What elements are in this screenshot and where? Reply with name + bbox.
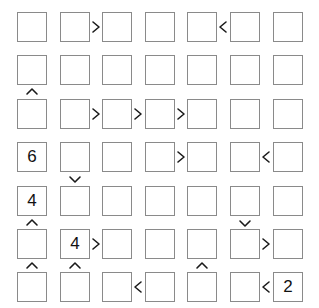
empty-cell[interactable] xyxy=(187,12,217,42)
empty-cell[interactable] xyxy=(102,272,132,302)
empty-cell[interactable] xyxy=(60,55,90,85)
less-than-icon xyxy=(216,20,230,34)
empty-cell[interactable] xyxy=(102,12,132,42)
empty-cell[interactable] xyxy=(187,186,217,216)
less-than-icon xyxy=(131,280,145,294)
empty-cell[interactable] xyxy=(102,99,132,129)
empty-cell[interactable] xyxy=(145,229,175,259)
empty-cell[interactable] xyxy=(102,142,132,172)
empty-cell[interactable] xyxy=(230,142,260,172)
empty-cell[interactable] xyxy=(230,12,260,42)
empty-cell[interactable] xyxy=(273,229,303,259)
empty-cell[interactable] xyxy=(102,186,132,216)
empty-cell[interactable] xyxy=(102,229,132,259)
given-cell[interactable]: 2 xyxy=(273,272,303,302)
empty-cell[interactable] xyxy=(230,272,260,302)
given-cell[interactable]: 6 xyxy=(17,142,47,172)
empty-cell[interactable] xyxy=(60,142,90,172)
empty-cell[interactable] xyxy=(17,229,47,259)
less-than-icon xyxy=(259,280,273,294)
greater-than-icon xyxy=(89,237,103,251)
empty-cell[interactable] xyxy=(60,186,90,216)
empty-cell[interactable] xyxy=(145,186,175,216)
futoshiki-board: 6442 xyxy=(0,0,319,308)
chevron-down-icon xyxy=(68,172,82,186)
empty-cell[interactable] xyxy=(60,99,90,129)
chevron-up-icon xyxy=(25,259,39,273)
empty-cell[interactable] xyxy=(230,186,260,216)
empty-cell[interactable] xyxy=(145,142,175,172)
empty-cell[interactable] xyxy=(145,12,175,42)
empty-cell[interactable] xyxy=(60,272,90,302)
less-than-icon xyxy=(259,150,273,164)
empty-cell[interactable] xyxy=(145,272,175,302)
greater-than-icon xyxy=(131,107,145,121)
empty-cell[interactable] xyxy=(17,99,47,129)
chevron-up-icon xyxy=(25,85,39,99)
empty-cell[interactable] xyxy=(273,99,303,129)
empty-cell[interactable] xyxy=(17,12,47,42)
greater-than-icon xyxy=(89,107,103,121)
empty-cell[interactable] xyxy=(17,55,47,85)
empty-cell[interactable] xyxy=(230,99,260,129)
greater-than-icon xyxy=(174,107,188,121)
empty-cell[interactable] xyxy=(187,142,217,172)
empty-cell[interactable] xyxy=(102,55,132,85)
empty-cell[interactable] xyxy=(273,55,303,85)
empty-cell[interactable] xyxy=(273,186,303,216)
empty-cell[interactable] xyxy=(145,55,175,85)
chevron-up-icon xyxy=(25,216,39,230)
empty-cell[interactable] xyxy=(273,12,303,42)
given-cell[interactable]: 4 xyxy=(17,186,47,216)
empty-cell[interactable] xyxy=(187,229,217,259)
empty-cell[interactable] xyxy=(187,272,217,302)
empty-cell[interactable] xyxy=(60,12,90,42)
empty-cell[interactable] xyxy=(273,142,303,172)
greater-than-icon xyxy=(174,150,188,164)
empty-cell[interactable] xyxy=(230,55,260,85)
given-cell[interactable]: 4 xyxy=(60,229,90,259)
chevron-down-icon xyxy=(238,216,252,230)
empty-cell[interactable] xyxy=(187,55,217,85)
greater-than-icon xyxy=(89,20,103,34)
empty-cell[interactable] xyxy=(230,229,260,259)
chevron-up-icon xyxy=(195,259,209,273)
empty-cell[interactable] xyxy=(187,99,217,129)
chevron-up-icon xyxy=(68,259,82,273)
empty-cell[interactable] xyxy=(17,272,47,302)
empty-cell[interactable] xyxy=(145,99,175,129)
greater-than-icon xyxy=(259,237,273,251)
